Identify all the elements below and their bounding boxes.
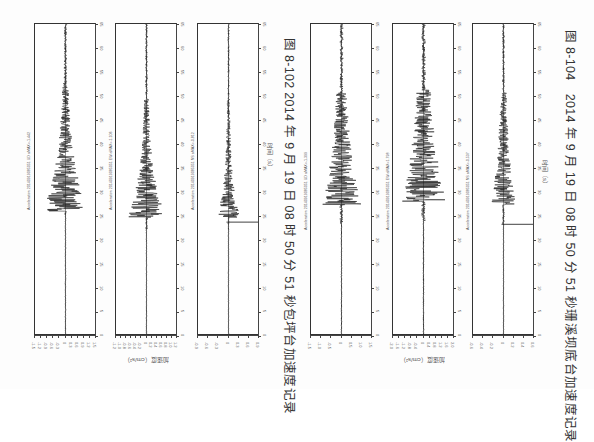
amplitude-tick-label: -1.2 <box>401 342 406 349</box>
amplitude-tick <box>513 335 514 338</box>
time-tick <box>533 72 536 73</box>
time-tick-label: 65 <box>375 22 380 26</box>
time-tick <box>371 240 374 241</box>
time-tick-label: 55 <box>375 70 380 74</box>
amplitude-tick-label: 1.5 <box>368 342 373 348</box>
amplitude-tick-label: 0.4 <box>520 342 525 348</box>
time-tick <box>371 24 374 25</box>
time-tick-label: 30 <box>457 190 462 194</box>
amplitude-tick-label: 0.6 <box>530 342 535 348</box>
time-tick <box>533 312 536 313</box>
channel-panel-ud <box>310 23 371 335</box>
time-tick-label: 20 <box>375 238 380 242</box>
amplitude-tick <box>398 335 399 338</box>
time-tick <box>371 312 374 313</box>
amplitude-tick-label: 1.0 <box>358 342 363 348</box>
time-tick <box>371 96 374 97</box>
waveform-trace <box>393 24 454 336</box>
time-tick-label: 50 <box>537 94 542 98</box>
time-tick-label: 65 <box>537 22 542 26</box>
time-tick-label: 5 <box>375 310 380 312</box>
time-tick-label: 10 <box>375 286 380 290</box>
time-tick-label: 45 <box>537 118 542 122</box>
time-tick-label: 0 <box>457 334 462 336</box>
time-tick-label: 15 <box>375 262 380 266</box>
amplitude-tick-label: 0.8 <box>432 342 437 348</box>
channel-title: Acceleration 20140919085051 NS aMAX=-0.5… <box>466 152 470 230</box>
amplitude-tick-label: -0.4 <box>413 342 418 349</box>
amplitude-tick <box>492 335 493 338</box>
time-tick <box>371 120 374 121</box>
channel-panel-ew <box>392 23 453 335</box>
time-tick-label: 65 <box>457 22 462 26</box>
amplitude-tick <box>482 335 483 338</box>
amplitude-tick-label: -1.6 <box>395 342 400 349</box>
amplitude-tick <box>320 335 321 338</box>
time-tick <box>453 168 456 169</box>
amplitude-tick <box>330 335 331 338</box>
time-tick-label: 5 <box>457 310 462 312</box>
time-tick-label: 10 <box>537 286 542 290</box>
amplitude-axis: -0.6-0.4-0.200.20.40.6 <box>472 335 534 349</box>
amplitude-tick-label: 0.4 <box>426 342 431 348</box>
time-tick-label: 15 <box>537 262 542 266</box>
time-tick-label: 35 <box>375 166 380 170</box>
time-tick-label: 0 <box>537 334 542 336</box>
amplitude-tick <box>341 335 342 338</box>
time-tick-label: 55 <box>537 70 542 74</box>
amplitude-tick-label: -0.5 <box>327 342 332 349</box>
amplitude-tick <box>423 335 424 338</box>
amplitude-tick <box>410 335 411 338</box>
time-tick <box>453 312 456 313</box>
amplitude-tick <box>310 335 311 338</box>
channel-title: Acceleration 20140919085051 EW aMAX=1.79… <box>386 153 390 230</box>
time-tick-label: 20 <box>457 238 462 242</box>
figure-caption: 图 8-104 2014 年 9 月 19 日 08 时 50 分 51 秒珊溪… <box>562 30 581 442</box>
time-tick-label: 0 <box>375 334 380 336</box>
time-tick <box>453 216 456 217</box>
amplitude-tick <box>416 335 417 338</box>
time-tick-label: 60 <box>457 46 462 50</box>
time-tick-label: 40 <box>457 142 462 146</box>
time-tick <box>533 96 536 97</box>
time-tick <box>533 24 536 25</box>
waveform-trace <box>311 24 372 336</box>
amplitude-tick-label: 0 <box>500 342 505 344</box>
amplitude-tick <box>429 335 430 338</box>
time-tick-label: 5 <box>537 310 542 312</box>
time-tick <box>453 240 456 241</box>
time-tick <box>453 144 456 145</box>
time-axis: 05101520253035404550556065 <box>453 23 465 336</box>
time-tick-label: 50 <box>375 94 380 98</box>
amplitude-tick <box>453 335 454 338</box>
time-tick <box>371 144 374 145</box>
time-tick <box>371 192 374 193</box>
time-tick-label: 10 <box>457 286 462 290</box>
channel-title: Acceleration 20140919085051 UD aMAX=-1.3… <box>304 152 308 230</box>
time-tick <box>453 120 456 121</box>
amplitude-tick <box>441 335 442 338</box>
time-tick-label: 25 <box>537 214 542 218</box>
amplitude-tick-label: 0.5 <box>348 342 353 348</box>
time-tick-label: 50 <box>457 94 462 98</box>
amplitude-tick-label: -0.6 <box>469 342 474 349</box>
amplitude-tick <box>404 335 405 338</box>
amplitude-tick-label: -0.2 <box>489 342 494 349</box>
channel-panel-ns <box>472 23 533 335</box>
amplitude-tick-label: -0.8 <box>407 342 412 349</box>
waveform-trace <box>473 24 534 336</box>
time-tick <box>533 192 536 193</box>
time-axis-line <box>453 23 454 336</box>
amplitude-tick-label: 0.2 <box>510 342 515 348</box>
time-tick-label: 20 <box>537 238 542 242</box>
time-tick <box>533 216 536 217</box>
time-tick <box>533 48 536 49</box>
time-tick <box>453 96 456 97</box>
amplitude-tick <box>435 335 436 338</box>
time-tick-label: 45 <box>375 118 380 122</box>
amplitude-tick <box>371 335 372 338</box>
amplitude-axis: -2.0-1.6-1.2-0.8-0.400.40.81.21.62.0 <box>392 335 454 349</box>
time-tick-label: 55 <box>457 70 462 74</box>
